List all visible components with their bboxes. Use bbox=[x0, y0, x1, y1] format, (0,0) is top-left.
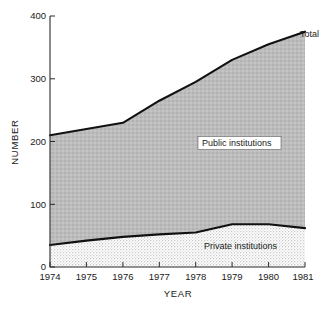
y-tick-label-100: 100 bbox=[30, 199, 46, 210]
y-tick-label-300: 300 bbox=[30, 73, 46, 84]
total-series-label: Total bbox=[300, 29, 319, 39]
x-tick-label-1975: 1975 bbox=[76, 271, 97, 282]
x-tick-label-1981: 1981 bbox=[292, 271, 313, 282]
y-tick-label-400: 400 bbox=[30, 10, 46, 21]
y-axis-tick-labels: 0 100 200 300 400 bbox=[30, 10, 46, 272]
y-tick-label-200: 200 bbox=[30, 136, 46, 147]
x-axis-tick-labels: 1974 1975 1976 1977 1978 1979 1980 1981 bbox=[39, 271, 313, 282]
chart-canvas: 0 100 200 300 400 1974 1975 1976 1977 19… bbox=[0, 0, 333, 309]
y-axis-title: NUMBER bbox=[9, 119, 20, 164]
x-tick-label-1974: 1974 bbox=[39, 271, 60, 282]
x-tick-label-1979: 1979 bbox=[222, 271, 243, 282]
x-tick-label-1980: 1980 bbox=[258, 271, 279, 282]
x-tick-label-1978: 1978 bbox=[185, 271, 206, 282]
area-chart-figure: 0 100 200 300 400 1974 1975 1976 1977 19… bbox=[0, 0, 333, 309]
x-tick-label-1976: 1976 bbox=[112, 271, 133, 282]
public-series-label: Public institutions bbox=[202, 138, 272, 148]
private-series-label: Private institutions bbox=[204, 241, 278, 251]
public-series-label-group: Public institutions bbox=[198, 137, 281, 150]
x-axis-title: YEAR bbox=[164, 288, 193, 299]
x-tick-label-1977: 1977 bbox=[149, 271, 170, 282]
